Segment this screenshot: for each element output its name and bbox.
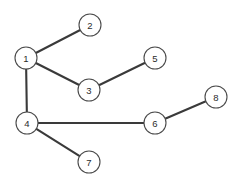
graph-node-5[interactable]: 5 [144, 47, 166, 69]
graph-edge-4-7[interactable] [36, 129, 79, 156]
graph-node-label-4: 4 [24, 118, 29, 129]
graph-node-4[interactable]: 4 [16, 112, 38, 134]
graph-node-label-7: 7 [86, 157, 91, 168]
graph-edge-1-2[interactable] [36, 30, 80, 53]
edges-layer [26, 30, 206, 156]
diagram-canvas: 12345678 [0, 0, 241, 186]
graph-node-8[interactable]: 8 [205, 86, 227, 108]
nodes-layer: 12345678 [15, 14, 227, 173]
graph-node-label-3: 3 [86, 85, 91, 96]
graph-edge-6-8[interactable] [165, 101, 206, 118]
graph-edge-1-4[interactable] [26, 69, 27, 112]
graph-edge-3-5[interactable] [99, 63, 145, 85]
graph-node-6[interactable]: 6 [144, 112, 166, 134]
graph-node-1[interactable]: 1 [15, 47, 37, 69]
graph-node-2[interactable]: 2 [79, 14, 101, 36]
graph-edge-1-3[interactable] [36, 63, 79, 85]
graph-node-label-8: 8 [213, 92, 218, 103]
graph-node-7[interactable]: 7 [78, 151, 100, 173]
graph-svg: 12345678 [0, 0, 241, 186]
graph-node-label-6: 6 [152, 118, 157, 129]
graph-node-label-5: 5 [152, 53, 157, 64]
graph-node-label-2: 2 [87, 20, 92, 31]
graph-node-3[interactable]: 3 [78, 79, 100, 101]
graph-node-label-1: 1 [23, 53, 28, 64]
